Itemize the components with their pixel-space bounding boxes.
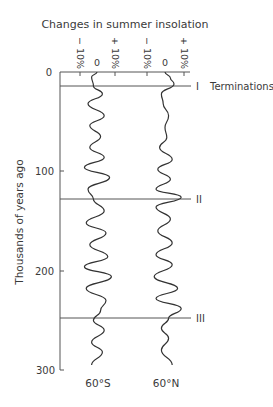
y-tick-0: 0 [46,67,52,78]
chart-title: Changes in summer insolation [41,18,208,31]
insolation-chart: Changes in summer insolation − 10% 0 + 1… [0,0,273,407]
y-axis-label: Thousands of years ago [13,159,25,285]
y-tick-100: 100 [35,166,54,177]
curve-60S [84,72,111,365]
curve-60N [154,72,181,365]
y-tick-300: 300 [36,365,55,376]
tick-label-s-zero: 0 [94,57,100,68]
termination-II-label: II [196,194,202,205]
axes [60,72,190,370]
tick-label-n-zero: 0 [162,57,168,68]
tick-label-n-plus10: + 10% [179,37,190,69]
y-tick-200: 200 [35,266,54,277]
series-label-60N: 60°N [153,377,179,389]
termination-III-label: III [196,313,205,324]
tick-label-s-minus10: − 10% [75,37,86,69]
tick-label-n-minus10: − 10% [142,37,153,69]
tick-label-s-plus10: + 10% [110,37,121,69]
series-label-60S: 60°S [85,377,111,389]
terminations-label: Terminations [209,81,273,92]
termination-I-label: I [196,81,199,92]
